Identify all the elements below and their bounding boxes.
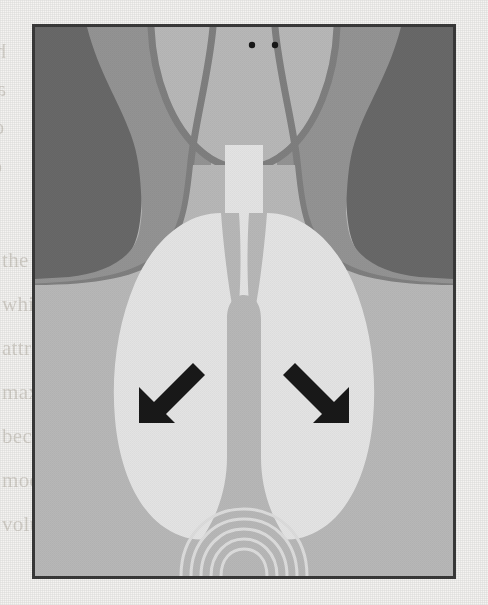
page-background: hyperinflatedand thediaphragmschest wast… <box>0 0 488 605</box>
bleed-line-1: hyperinflated <box>0 40 6 63</box>
bleed-line-3: diaphragms <box>0 116 4 139</box>
figure-alt-text: Postero-anterior chest radiograph diagra… <box>0 0 1 1</box>
chest-radiograph-figure <box>32 24 456 579</box>
marker-dot-left <box>249 42 255 48</box>
marker-dot-right <box>272 42 278 48</box>
chest-radiograph-svg <box>35 27 453 576</box>
bleed-line-2: and the <box>0 78 6 101</box>
radiograph-canvas <box>35 27 453 576</box>
bleed-line-4: chest was <box>0 155 2 178</box>
